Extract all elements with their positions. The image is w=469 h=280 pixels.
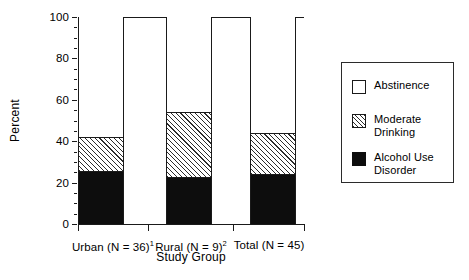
y-axis-title: Percent	[8, 17, 24, 224]
legend-swatch-alcohol-use-disorder-icon	[352, 152, 366, 166]
bar-total	[250, 17, 296, 224]
y-minor-tick-55	[74, 110, 77, 111]
y-tick-100	[72, 17, 77, 18]
x-tick-left-edge	[78, 224, 79, 231]
legend-label-moderate-line2: Drinking	[374, 126, 415, 138]
y-tick-label-100: 100	[50, 11, 70, 23]
legend-label-moderate-line1: Moderate	[374, 113, 421, 125]
y-tick-40	[72, 141, 77, 142]
stacked-bar-chart-figure: Percent 100 80 60 40 20 0	[0, 0, 469, 280]
y-minor-tick-65	[74, 89, 77, 90]
x-label-superscript-urban: 1	[150, 239, 154, 248]
bar-rural	[166, 17, 212, 224]
x-axis-line	[78, 224, 304, 225]
y-tick-80	[72, 58, 77, 59]
x-axis-title: Study Group	[78, 250, 304, 264]
legend-swatch-moderate-drinking-icon	[352, 114, 366, 128]
chart-legend: Abstinence ModerateDrinking Alcohol UseD…	[341, 62, 454, 183]
plot-area: 100 80 60 40 20 0	[78, 17, 304, 224]
x-tick-rural-total	[233, 224, 234, 231]
bar-rural-segment-abstinence	[167, 17, 211, 112]
legend-item-alcohol-use-disorder: Alcohol UseDisorder	[352, 151, 434, 176]
legend-label-abstinence: Abstinence	[374, 79, 429, 92]
legend-label-moderate-drinking: ModerateDrinking	[374, 113, 421, 138]
x-tick-urban-rural	[148, 224, 149, 231]
y-tick-60	[72, 100, 77, 101]
bar-rural-segment-alcohol-use-disorder	[167, 178, 211, 224]
legend-item-moderate-drinking: ModerateDrinking	[352, 113, 421, 138]
bar-total-segment-abstinence	[251, 17, 295, 133]
legend-swatch-abstinence-icon	[352, 80, 366, 94]
y-minor-tick-50	[74, 121, 77, 122]
bar-total-segment-alcohol-use-disorder	[251, 175, 295, 224]
y-minor-tick-70	[74, 79, 77, 80]
y-minor-tick-90	[74, 38, 77, 39]
y-minor-tick-45	[74, 131, 77, 132]
bar-urban-segment-abstinence	[79, 17, 123, 137]
y-minor-tick-30	[74, 162, 77, 163]
bar-urban	[78, 17, 124, 224]
y-tick-20	[72, 183, 77, 184]
y-minor-tick-75	[74, 69, 77, 70]
y-tick-0	[72, 224, 77, 225]
legend-label-alcohol-use-disorder: Alcohol UseDisorder	[374, 151, 434, 176]
bar-urban-segment-moderate-drinking	[79, 137, 123, 172]
y-tick-label-40: 40	[56, 135, 69, 147]
legend-item-abstinence: Abstinence	[352, 79, 429, 94]
bar-rural-segment-moderate-drinking	[167, 112, 211, 178]
y-tick-label-0: 0	[63, 218, 70, 230]
y-minor-tick-95	[74, 27, 77, 28]
y-tick-label-60: 60	[56, 94, 69, 106]
bar-urban-segment-alcohol-use-disorder	[79, 172, 123, 224]
y-minor-tick-15	[74, 193, 77, 194]
legend-label-aud-line1: Alcohol Use	[374, 151, 434, 163]
bar-total-segment-moderate-drinking	[251, 133, 295, 175]
y-minor-tick-25	[74, 172, 77, 173]
y-tick-label-80: 80	[56, 52, 69, 64]
y-minor-tick-5	[74, 214, 77, 215]
y-tick-label-20: 20	[56, 177, 69, 189]
y-minor-tick-10	[74, 203, 77, 204]
y-minor-tick-35	[74, 152, 77, 153]
y-minor-tick-85	[74, 48, 77, 49]
legend-label-aud-line2: Disorder	[374, 164, 416, 176]
x-label-superscript-rural: 2	[223, 239, 227, 248]
x-tick-right-edge	[304, 224, 305, 231]
